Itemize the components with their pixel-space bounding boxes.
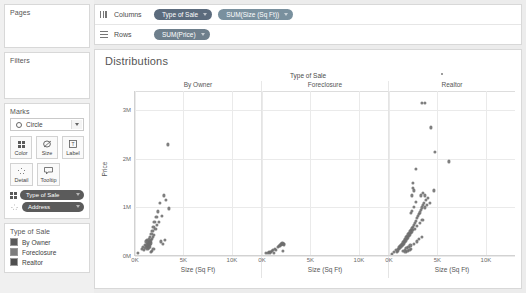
data-point[interactable] [156, 223, 159, 226]
x-axis[interactable]: 0K5K10KSize (Sq Ft)0K5K10KSize (Sq Ft)0K… [135, 256, 515, 278]
data-point[interactable] [432, 189, 435, 192]
legend-swatch [10, 248, 18, 256]
scatter-panel-foreclosure[interactable] [261, 91, 388, 256]
data-point[interactable] [162, 242, 165, 245]
detail-icon [17, 167, 26, 176]
detail-button[interactable]: Detail [10, 163, 33, 186]
data-point[interactable] [154, 227, 157, 230]
data-point[interactable] [414, 227, 417, 230]
legend-item-realtor[interactable]: Realtor [5, 257, 89, 267]
detail-button-label: Detail [14, 177, 28, 183]
scatter-panels[interactable] [135, 91, 515, 256]
mark-type-dropdown[interactable]: Circle [10, 118, 84, 131]
data-point[interactable] [429, 126, 432, 129]
x-axis-panel-realtor[interactable]: 0K5K10KSize (Sq Ft) [388, 256, 515, 278]
filters-card[interactable]: Filters [4, 52, 90, 99]
gridline-horizontal [135, 207, 261, 208]
gridline-horizontal [389, 207, 515, 208]
data-point[interactable] [428, 201, 431, 204]
data-point[interactable] [159, 201, 162, 204]
data-point[interactable] [447, 160, 450, 163]
data-point[interactable] [412, 182, 415, 185]
size-icon [43, 140, 52, 149]
x-tick-label: 0K [385, 257, 392, 263]
gridline-horizontal [389, 110, 515, 111]
scatter-panel-realtor[interactable] [388, 91, 515, 256]
columns-shelf[interactable]: Columns Type of Sale SUM(Size (Sq Ft)) [95, 5, 521, 25]
data-point[interactable] [162, 194, 165, 197]
x-axis-panel-foreclosure[interactable]: 0K5K10KSize (Sq Ft) [261, 256, 388, 278]
scatter-panel-by-owner[interactable] [135, 91, 261, 256]
gridline-vertical [437, 91, 438, 256]
pages-card[interactable]: Pages [4, 4, 90, 48]
data-point[interactable] [155, 216, 158, 219]
data-point[interactable] [167, 207, 170, 210]
data-point[interactable] [281, 249, 284, 252]
legend-item-label: Foreclosure [22, 249, 56, 256]
data-point[interactable] [410, 209, 413, 212]
legend-item-label: Realtor [22, 259, 43, 266]
data-point[interactable] [163, 238, 166, 241]
data-point[interactable] [414, 200, 417, 203]
data-point[interactable] [417, 237, 420, 240]
size-button[interactable]: Size [36, 136, 58, 159]
data-point[interactable] [418, 221, 421, 224]
data-point[interactable] [410, 247, 413, 250]
rows-shelf[interactable]: Rows SUM(Price) [95, 25, 521, 44]
data-point[interactable] [149, 240, 152, 243]
svg-text:T: T [71, 141, 74, 147]
color-button[interactable]: Color [10, 136, 32, 159]
legend-item-foreclosure[interactable]: Foreclosure [5, 247, 89, 257]
gridline-horizontal [262, 159, 388, 160]
panel-header-foreclosure[interactable]: Foreclosure [261, 81, 388, 91]
tableau-worksheet: Pages Filters Marks Circle Color [0, 0, 526, 293]
data-point[interactable] [158, 220, 161, 223]
columns-icon [100, 11, 108, 18]
data-point[interactable] [420, 235, 423, 238]
color-squares-icon [10, 192, 17, 199]
data-point[interactable] [157, 210, 160, 213]
marks-pill-address[interactable]: Address [22, 202, 84, 212]
rows-pill-sum-price[interactable]: SUM(Price) [154, 29, 210, 40]
columns-pill-sum-size[interactable]: SUM(Size (Sq Ft)) [218, 9, 293, 20]
panel-header-realtor[interactable]: Realtor [388, 81, 515, 91]
x-tick-label: 5K [180, 257, 187, 263]
marks-pill-type-of-sale[interactable]: Type of Sale [20, 190, 84, 200]
data-point[interactable] [166, 143, 169, 146]
gridline-horizontal [262, 207, 388, 208]
gridline-vertical [232, 91, 233, 256]
filters-card-title: Filters [5, 53, 89, 66]
data-point[interactable] [421, 218, 424, 221]
x-tick-label: 5K [434, 257, 441, 263]
data-point[interactable] [415, 167, 418, 170]
x-tick-label: 10K [481, 257, 492, 263]
data-point[interactable] [152, 248, 155, 251]
mark-type-value: Circle [26, 121, 43, 128]
data-point[interactable] [161, 215, 164, 218]
data-point[interactable] [433, 150, 436, 153]
data-point[interactable] [423, 102, 426, 105]
tooltip-button-label: Tooltip [41, 177, 57, 183]
data-point[interactable] [411, 194, 414, 197]
x-axis-panel-by-owner[interactable]: 0K5K10KSize (Sq Ft) [135, 256, 261, 278]
legend-item-by-owner[interactable]: By Owner [5, 237, 89, 247]
data-point[interactable] [152, 234, 155, 237]
visualization-area[interactable]: Distributions Type of Sale By OwnerForec… [94, 49, 522, 289]
data-point[interactable] [425, 203, 428, 206]
columns-pill-type-of-sale[interactable]: Type of Sale [154, 9, 212, 20]
color-legend-card: Type of Sale By Owner Foreclosure Realto… [4, 223, 90, 273]
data-point[interactable] [416, 224, 419, 227]
data-point[interactable] [413, 242, 416, 245]
label-button-label: Label [66, 150, 79, 156]
marks-card-title: Marks [5, 104, 89, 117]
data-point[interactable] [266, 251, 269, 254]
chevron-down-icon[interactable] [71, 120, 82, 129]
panel-header-by-owner[interactable]: By Owner [135, 81, 261, 91]
tooltip-button[interactable]: Tooltip [37, 163, 60, 186]
data-point[interactable] [164, 199, 167, 202]
shelf-container: Columns Type of Sale SUM(Size (Sq Ft)) R… [94, 4, 522, 45]
color-button-label: Color [14, 150, 27, 156]
data-point[interactable] [426, 196, 429, 199]
x-tick-label: 0K [131, 257, 138, 263]
label-button[interactable]: T Label [62, 136, 84, 159]
